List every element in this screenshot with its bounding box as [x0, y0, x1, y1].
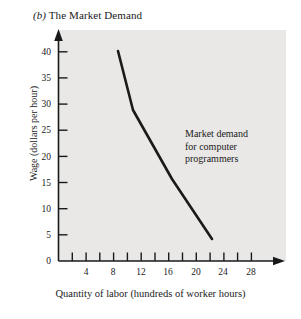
- y-axis-title: Wage (dollars per hour): [28, 59, 39, 209]
- curve-annotation-line-2: for computer: [185, 141, 248, 154]
- x-tick-label-4: 4: [77, 267, 95, 277]
- curve-annotation: Market demand for computer programmers: [185, 128, 248, 166]
- x-tick-label-12: 12: [132, 267, 150, 277]
- x-tick-label-20: 20: [187, 267, 205, 277]
- x-axis-title: Quantity of labor (hundreds of worker ho…: [0, 288, 301, 299]
- y-axis-ticks: [59, 52, 68, 235]
- x-tick-label-24: 24: [214, 267, 232, 277]
- y-axis: [54, 29, 63, 261]
- x-tick-label-28: 28: [242, 267, 260, 277]
- x-axis-ticks: [72, 253, 251, 262]
- y-tick-label-5: 5: [33, 230, 51, 240]
- figure-panel-b: (b) The Market Demand: [0, 0, 301, 319]
- y-tick-label-40: 40: [33, 47, 51, 57]
- x-tick-label-8: 8: [104, 267, 122, 277]
- y-tick-label-0: 0: [33, 256, 51, 266]
- curve-annotation-line-3: programmers: [185, 153, 248, 166]
- x-tick-label-16: 16: [159, 267, 177, 277]
- curve-annotation-line-1: Market demand: [185, 128, 248, 141]
